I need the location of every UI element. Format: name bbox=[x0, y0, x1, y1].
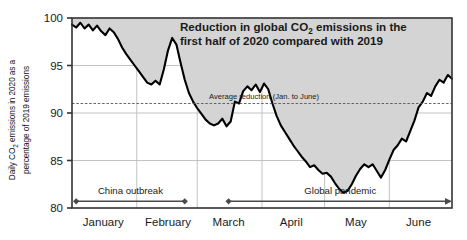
x-tick-labels-group: JanuaryFebruaryMarchAprilMayJune bbox=[83, 216, 431, 228]
y-tick-labels-group: 80859095100 bbox=[44, 12, 63, 214]
span-diamond-marker bbox=[182, 198, 188, 204]
x-tick-label-february: February bbox=[145, 216, 191, 228]
y-tick-label: 95 bbox=[50, 60, 63, 72]
y-tick-label: 100 bbox=[44, 12, 63, 24]
x-tick-label-may: May bbox=[345, 216, 367, 228]
y-tick-label: 80 bbox=[50, 202, 63, 214]
x-tick-label-june: June bbox=[406, 216, 431, 228]
span-label-global-pandemic: Global pandemic bbox=[304, 185, 376, 196]
x-tick-label-march: March bbox=[213, 216, 245, 228]
span-diamond-marker bbox=[73, 198, 79, 204]
average-reduction-label: Average reduction (Jan. to June) bbox=[209, 92, 320, 101]
span-diamond-marker bbox=[225, 198, 231, 204]
x-tick-label-january: January bbox=[83, 216, 124, 228]
annotation-spans-group: China outbreakGlobal pandemic bbox=[73, 185, 452, 204]
span-arrow-marker bbox=[445, 198, 452, 205]
chart-svg: 80859095100 JanuaryFebruaryMarchAprilMay… bbox=[0, 0, 467, 240]
x-tick-label-april: April bbox=[280, 216, 303, 228]
chart-title-line2: first half of 2020 compared with 2019 bbox=[180, 34, 384, 47]
chart-figure: Daily CO2 emissions in 2020 as a percent… bbox=[0, 0, 467, 240]
y-tick-label: 85 bbox=[50, 155, 63, 167]
span-label-china-outbreak: China outbreak bbox=[98, 185, 163, 196]
y-tick-label: 90 bbox=[50, 107, 63, 119]
